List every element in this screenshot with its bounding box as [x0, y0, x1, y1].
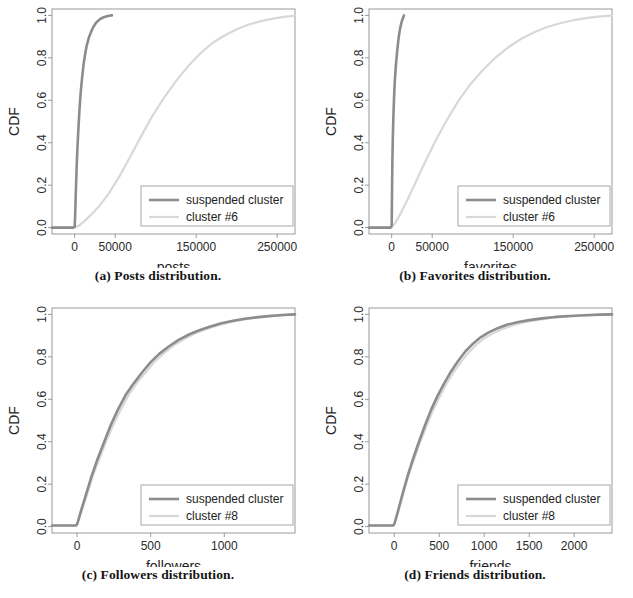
x-axis-title: followers: [146, 558, 201, 567]
y-tick-label: 0.2: [352, 476, 366, 493]
y-tick-label: 1.0: [352, 7, 366, 24]
y-tick-label: 1.0: [35, 7, 49, 24]
y-tick-label: 0.6: [35, 92, 49, 109]
subfigure-caption-b: (b) Favorites distribution.: [317, 268, 633, 284]
y-tick-label: 0.4: [352, 134, 366, 151]
legend-label: cluster #8: [186, 509, 238, 523]
series-line-suspended-cluster: [52, 15, 112, 227]
x-tick-label: 150000: [493, 240, 533, 254]
y-tick-label: 0.6: [352, 391, 366, 408]
subfigure-caption-c: (c) Followers distribution.: [0, 567, 316, 583]
x-tick-label: 1000: [471, 539, 498, 553]
x-tick-label: 500: [429, 539, 449, 553]
y-axis-title: CDF: [6, 406, 22, 435]
y-axis-title: CDF: [6, 107, 22, 136]
y-tick-label: 0.8: [352, 348, 366, 365]
legend-label: cluster #6: [503, 210, 555, 224]
x-tick-label: 250000: [257, 240, 297, 254]
chart-svg-friends: 05001000150020000.00.20.40.60.81.0friend…: [317, 299, 633, 567]
legend-label: cluster #6: [186, 210, 238, 224]
x-tick-label: 250000: [574, 240, 614, 254]
y-tick-label: 1.0: [352, 306, 366, 323]
y-tick-label: 0.4: [35, 134, 49, 151]
x-axis-title: friends: [469, 558, 511, 567]
x-tick-label: 0: [391, 539, 398, 553]
subfigure-followers: 050010000.00.20.40.60.81.0followersCDFsu…: [0, 299, 316, 598]
y-tick-label: 0.0: [35, 518, 49, 535]
legend-label: suspended cluster: [186, 193, 283, 207]
x-tick-label: 150000: [176, 240, 216, 254]
y-tick-label: 0.8: [35, 348, 49, 365]
x-axis-title: posts: [157, 259, 190, 268]
x-tick-label: 0: [388, 240, 395, 254]
y-tick-label: 0.2: [35, 476, 49, 493]
y-tick-label: 0.0: [35, 219, 49, 236]
y-axis-title: CDF: [323, 107, 339, 136]
x-axis-title: favorites: [464, 259, 517, 268]
y-tick-label: 0.0: [352, 518, 366, 535]
y-tick-label: 1.0: [35, 306, 49, 323]
chart-svg-favorites: 0500001500002500000.00.20.40.60.81.0favo…: [317, 0, 633, 268]
legend-label: suspended cluster: [503, 492, 600, 506]
y-tick-label: 0.0: [352, 219, 366, 236]
figure-root: 0500001500002500000.00.20.40.60.81.0post…: [0, 0, 633, 598]
y-tick-label: 0.6: [352, 92, 366, 109]
x-tick-label: 0: [74, 539, 81, 553]
y-tick-label: 0.2: [35, 177, 49, 194]
subfigure-friends: 05001000150020000.00.20.40.60.81.0friend…: [317, 299, 633, 598]
x-tick-label: 50000: [415, 240, 449, 254]
y-tick-label: 0.2: [352, 177, 366, 194]
chart-svg-followers: 050010000.00.20.40.60.81.0followersCDFsu…: [0, 299, 316, 567]
x-tick-label: 500: [141, 539, 161, 553]
subfigure-caption-d: (d) Friends distribution.: [317, 567, 633, 583]
subfigure-caption-a: (a) Posts distribution.: [0, 268, 316, 284]
x-tick-label: 1000: [211, 539, 238, 553]
x-tick-label: 0: [71, 240, 78, 254]
y-axis-title: CDF: [323, 406, 339, 435]
plot-area-posts: 0500001500002500000.00.20.40.60.81.0post…: [0, 0, 316, 268]
x-tick-label: 1500: [516, 539, 543, 553]
y-tick-label: 0.8: [35, 49, 49, 66]
subfigure-favorites: 0500001500002500000.00.20.40.60.81.0favo…: [317, 0, 633, 299]
y-tick-label: 0.4: [35, 433, 49, 450]
legend-label: suspended cluster: [186, 492, 283, 506]
y-tick-label: 0.4: [352, 433, 366, 450]
y-tick-label: 0.8: [352, 49, 366, 66]
x-tick-label: 50000: [98, 240, 132, 254]
plot-area-friends: 05001000150020000.00.20.40.60.81.0friend…: [317, 299, 633, 567]
plot-area-favorites: 0500001500002500000.00.20.40.60.81.0favo…: [317, 0, 633, 268]
series-line-suspended-cluster: [369, 15, 404, 227]
x-tick-label: 2000: [561, 539, 588, 553]
chart-svg-posts: 0500001500002500000.00.20.40.60.81.0post…: [0, 0, 316, 268]
subfigure-posts: 0500001500002500000.00.20.40.60.81.0post…: [0, 0, 316, 299]
y-tick-label: 0.6: [35, 391, 49, 408]
plot-area-followers: 050010000.00.20.40.60.81.0followersCDFsu…: [0, 299, 316, 567]
legend-label: cluster #8: [503, 509, 555, 523]
legend-label: suspended cluster: [503, 193, 600, 207]
